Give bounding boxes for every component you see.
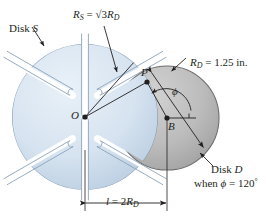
radius-s-label: RS = √3RD	[73, 8, 119, 22]
geneva-mechanism-figure: Disk S RS = √3RD RD = 1.25 in. O P B ϕ D…	[0, 0, 269, 218]
radius-d-eq: =	[202, 56, 214, 68]
point-o-marker	[82, 114, 87, 119]
disk-d-condition-label: when ϕ = 120°	[194, 177, 258, 189]
disk-s-word: Disk	[9, 22, 33, 34]
disk-d-letter: D	[235, 163, 243, 175]
radius-s-var: R	[73, 8, 80, 20]
length-rhs-sub: D	[133, 200, 139, 209]
when-word: when	[194, 177, 218, 189]
radius-d-label: RD = 1.25 in.	[190, 56, 247, 70]
point-b-label: B	[168, 120, 175, 132]
disk-s-letter: S	[33, 22, 39, 34]
point-o-label: O	[71, 109, 79, 121]
point-p-marker	[144, 79, 149, 84]
disk-d-label: Disk D	[211, 163, 242, 175]
radius-d-var: R	[190, 56, 197, 68]
length-eq: =	[109, 195, 121, 207]
radius-d-unit: in.	[236, 56, 247, 68]
radius-s-sqrt: √3	[95, 8, 107, 20]
point-p-label: P	[141, 66, 148, 78]
length-rhs-var: R	[126, 195, 133, 207]
radius-s-eq: =	[84, 8, 96, 20]
condition-unit: °	[255, 177, 258, 186]
length-label: l = 2RD	[106, 195, 139, 209]
angle-phi-label: ϕ	[172, 85, 178, 97]
radius-s-rhs-var: R	[107, 8, 114, 20]
radius-d-value: 1.25	[214, 56, 233, 68]
disk-d-word: Disk	[211, 163, 235, 175]
disk-s-label: Disk S	[9, 22, 38, 34]
radius-s-rhs-sub: D	[114, 13, 120, 22]
condition-value: 120	[238, 177, 255, 189]
